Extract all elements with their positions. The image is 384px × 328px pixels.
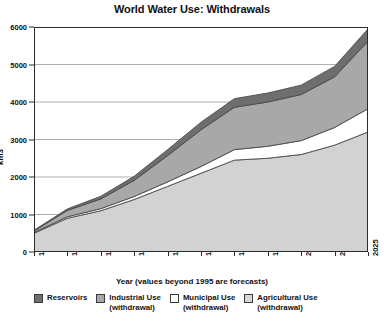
legend-sublabel-municipal-use: (withdrawal) <box>183 303 235 313</box>
y-tick-label-3000: 3000 <box>10 135 27 144</box>
legend-item-reservoirs[interactable]: Reservoirs <box>34 293 87 303</box>
legend-label-agricultural-use: Agricultural Use(withdrawal) <box>257 293 317 312</box>
legend-swatch-reservoirs <box>34 294 43 303</box>
legend-label-municipal-use: Municipal Use(withdrawal) <box>183 293 235 312</box>
y-tick-label-1000: 1000 <box>10 210 27 219</box>
y-axis: km3 0100020003000400050006000 <box>0 27 34 252</box>
x-tick-label-2025: 2025 <box>371 239 380 256</box>
x-tick-mark-2000 <box>301 252 302 256</box>
y-tick-label-0: 0 <box>23 248 27 257</box>
x-tick-mark-2010 <box>335 252 336 256</box>
y-tick-label-2000: 2000 <box>10 173 27 182</box>
legend-swatch-agricultural-use <box>244 294 253 303</box>
legend-sublabel-agricultural-use: (withdrawal) <box>257 303 317 313</box>
y-tick-label-4000: 4000 <box>10 98 27 107</box>
chart-title: World Water Use: Withdrawals <box>0 3 384 15</box>
y-tick-label-6000: 6000 <box>10 23 27 32</box>
x-tick-mark-1940 <box>67 252 68 256</box>
x-axis-title: Year (values beyond 1995 are forecasts) <box>0 277 384 286</box>
x-axis: 1900194019501960197019801990199520002010… <box>34 252 368 278</box>
x-tick-mark-1980 <box>201 252 202 256</box>
y-axis-title: km3 <box>0 149 5 165</box>
chart-legend: ReservoirsIndustrial Use(withdrawal)Muni… <box>34 293 378 323</box>
x-tick-mark-2025 <box>368 252 369 256</box>
x-tick-mark-1970 <box>168 252 169 256</box>
legend-swatch-industrial-use <box>96 294 105 303</box>
legend-item-industrial-use[interactable]: Industrial Use(withdrawal) <box>96 293 161 312</box>
legend-swatch-municipal-use <box>170 294 179 303</box>
legend-sublabel-industrial-use: (withdrawal) <box>109 303 161 313</box>
x-tick-mark-1960 <box>134 252 135 256</box>
x-tick-mark-1950 <box>101 252 102 256</box>
x-tick-mark-1995 <box>268 252 269 256</box>
legend-label-industrial-use: Industrial Use(withdrawal) <box>109 293 161 312</box>
legend-label-reservoirs: Reservoirs <box>47 293 87 303</box>
stacked-area-series <box>34 27 368 252</box>
legend-item-agricultural-use[interactable]: Agricultural Use(withdrawal) <box>244 293 317 312</box>
chart-root: World Water Use: Withdrawals km3 0100020… <box>0 0 384 328</box>
y-tick-label-5000: 5000 <box>10 60 27 69</box>
x-tick-mark-1990 <box>234 252 235 256</box>
x-tick-mark-1900 <box>34 252 35 256</box>
legend-item-municipal-use[interactable]: Municipal Use(withdrawal) <box>170 293 235 312</box>
plot-area <box>34 27 368 252</box>
